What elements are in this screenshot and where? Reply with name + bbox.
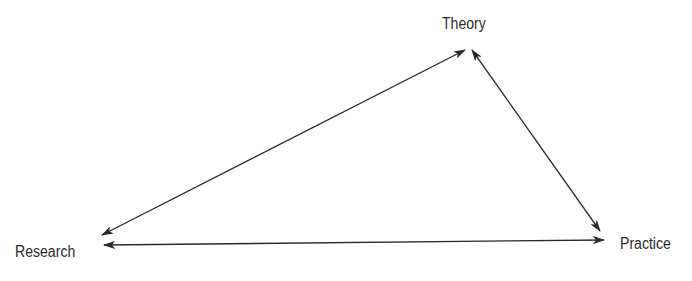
node-practice-label: Practice (620, 235, 671, 253)
edge-theory-practice (472, 50, 600, 231)
edge-research-practice (104, 240, 604, 245)
relationship-diagram (0, 0, 692, 281)
edge-research-theory (102, 50, 465, 235)
node-research-label: Research (15, 243, 75, 261)
node-theory-label: Theory (442, 15, 486, 33)
